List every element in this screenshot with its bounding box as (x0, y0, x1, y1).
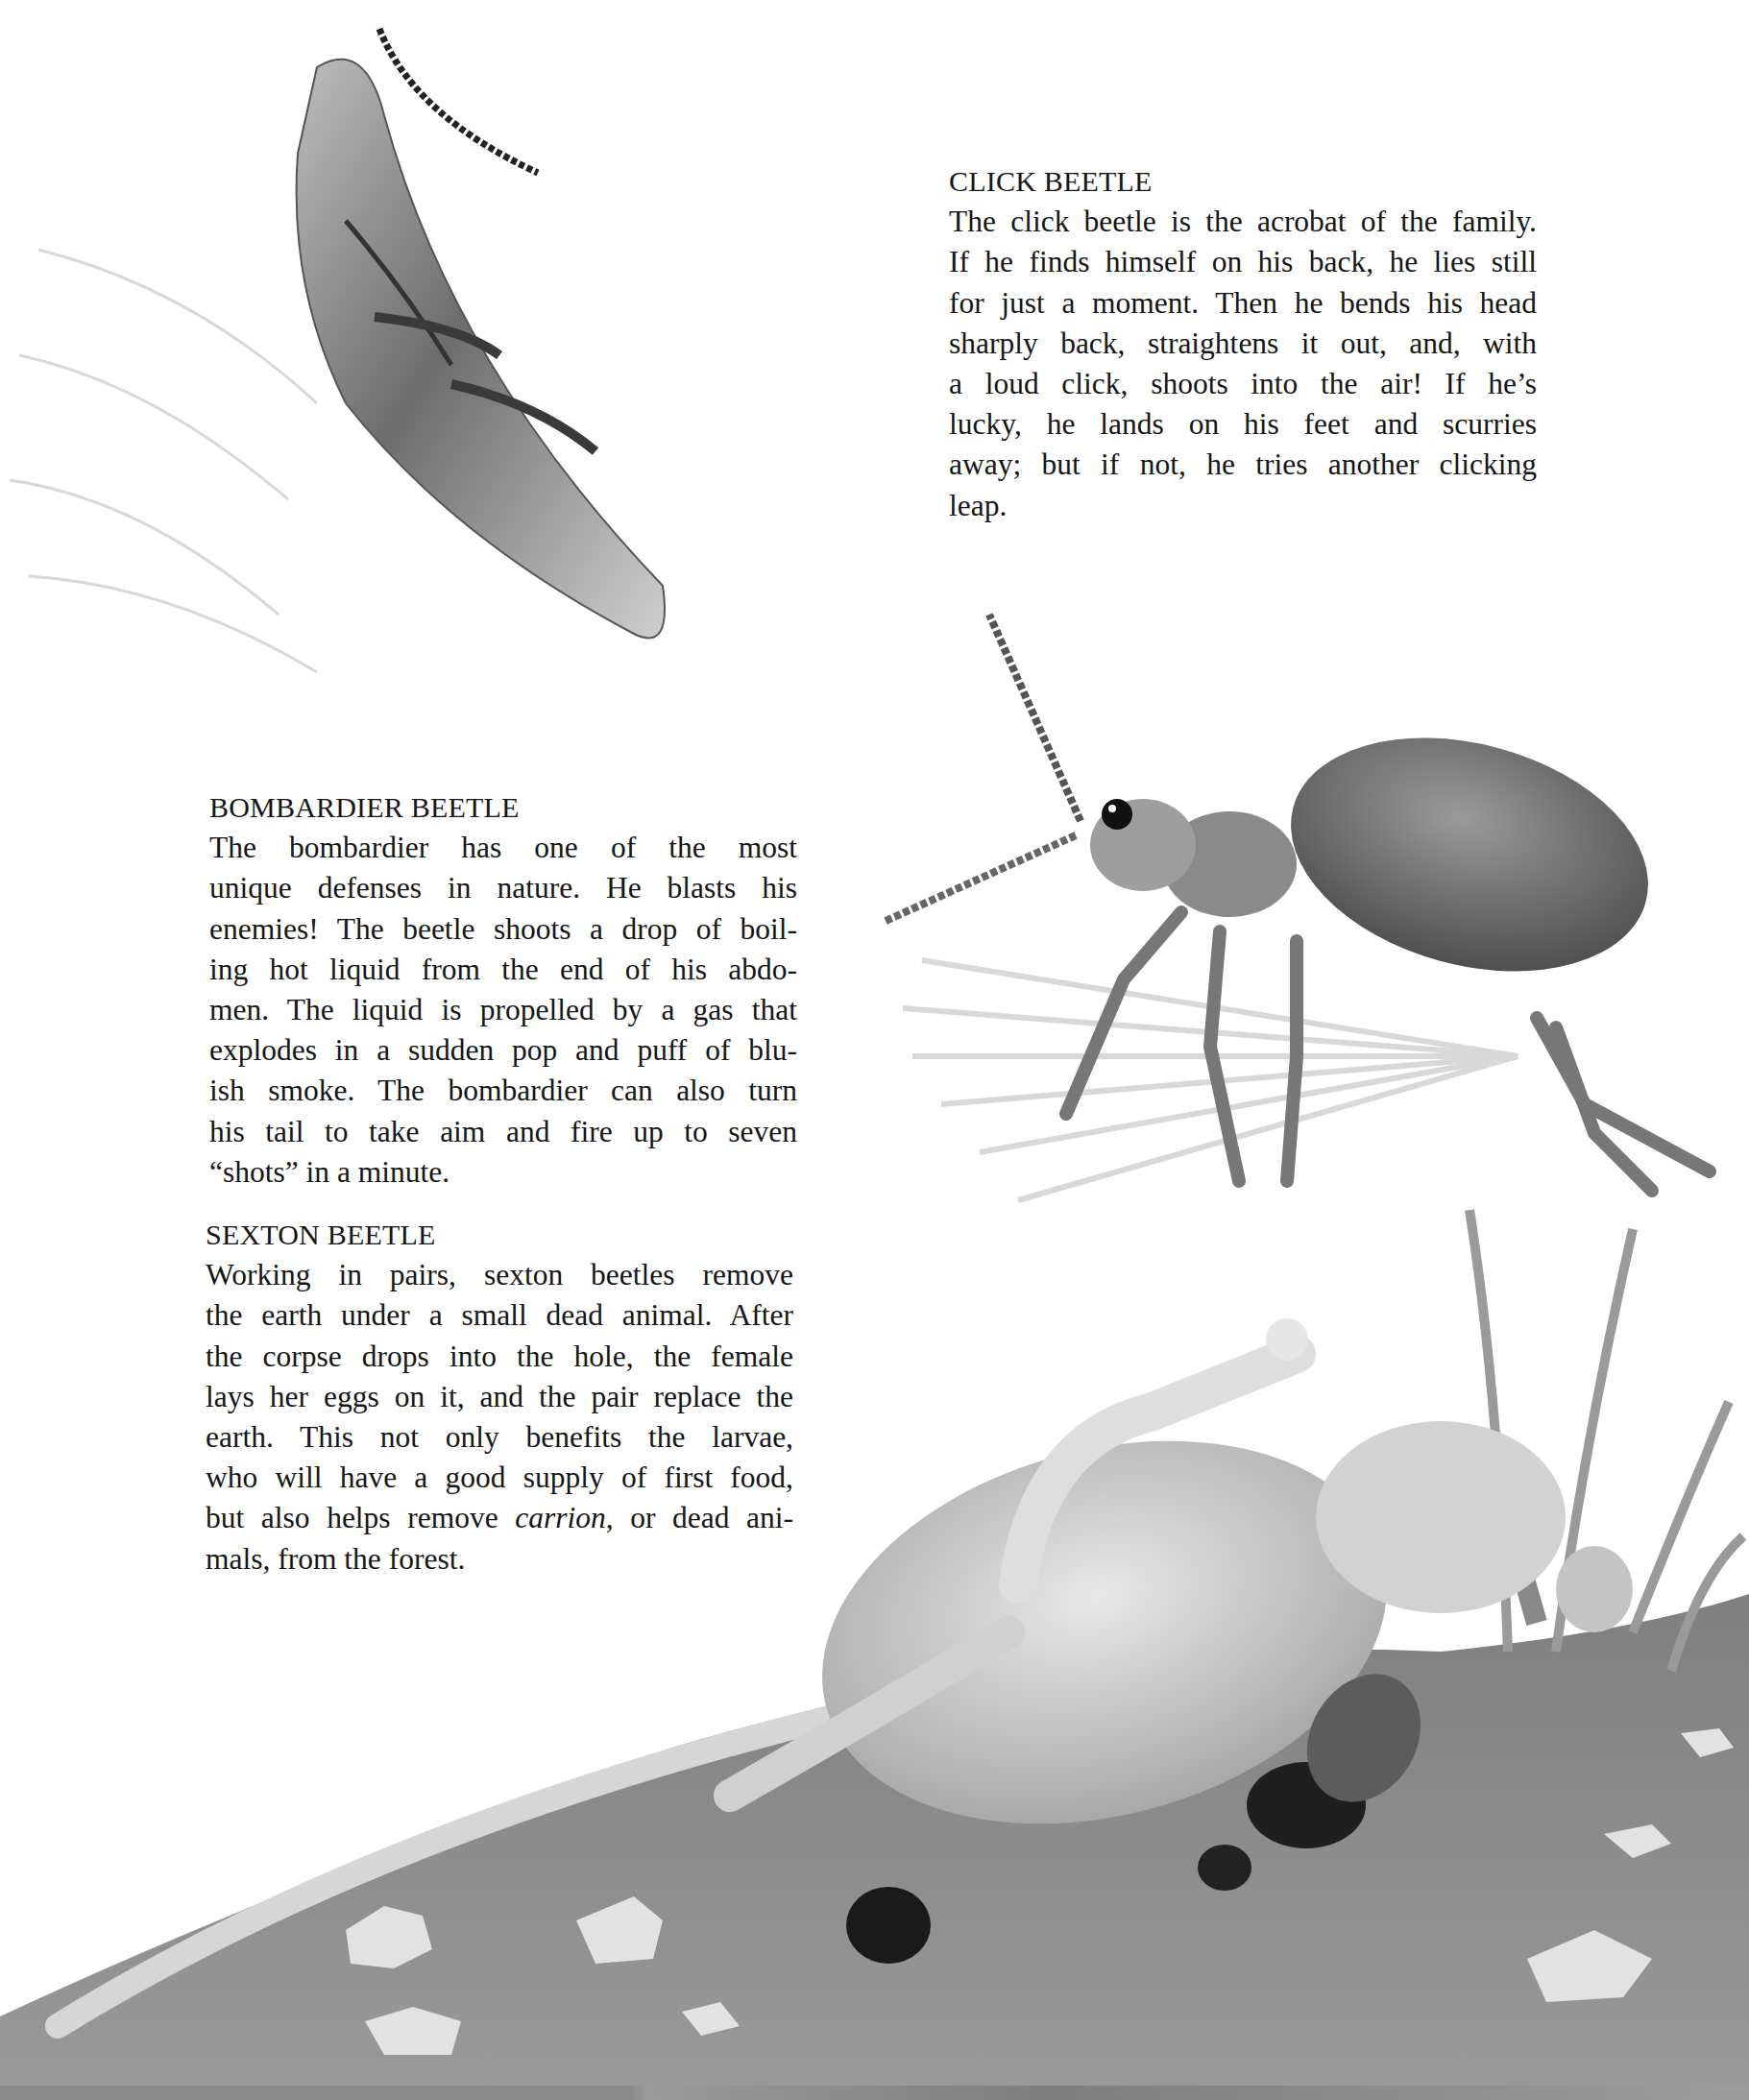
text-fragment: , or dead ani- (606, 1501, 793, 1534)
text-line-with-italic: but also helps remove carrion, or dead a… (206, 1498, 793, 1538)
text-line: If he finds himself on his back, he lies… (949, 242, 1537, 282)
text-line: a loud click, shoots into the air! If he… (949, 364, 1537, 404)
text-line: men. The liquid is propelled by a gas th… (209, 990, 797, 1030)
text-line: away; but if not, he tries another click… (949, 445, 1537, 485)
page-bottom-edge (0, 2086, 1749, 2100)
text-line: earth. This not only benefits the larvae… (206, 1417, 793, 1458)
text-line: for just a moment. Then he bends his hea… (949, 283, 1537, 324)
sexton-beetle-section: SEXTON BEETLE Working in pairs, sexton b… (206, 1215, 793, 1580)
text-line: leap. (949, 486, 1537, 526)
text-line: “shots” in a minute. (209, 1152, 797, 1193)
click-beetle-illustration (10, 29, 665, 672)
click-beetle-section: CLICK BEETLE The click beetle is the acr… (949, 161, 1537, 526)
text-line: ish smoke. The bombardier can also turn (209, 1071, 797, 1111)
text-line: sharply back, straightens it out, and, w… (949, 324, 1537, 364)
bombardier-beetle-illustration (884, 615, 1710, 1200)
text-line: the earth under a small dead animal. Aft… (206, 1295, 793, 1336)
section-heading: SEXTON BEETLE (206, 1215, 793, 1255)
bombardier-beetle-section: BOMBARDIER BEETLE The bombardier has one… (209, 787, 797, 1193)
text-line: mals, from the forest. (206, 1539, 793, 1580)
text-line: ing hot liquid from the end of his abdo- (209, 950, 797, 990)
text-line: his tail to take aim and fire up to seve… (209, 1112, 797, 1152)
motion-lines-icon (10, 250, 317, 672)
text-line: enemies! The beetle shoots a drop of boi… (209, 909, 797, 950)
text-line: the corpse drops into the hole, the fema… (206, 1337, 793, 1377)
text-line: The click beetle is the acrobat of the f… (949, 202, 1537, 242)
text-line: lays her eggs on it, and the pair replac… (206, 1377, 793, 1417)
section-heading: CLICK BEETLE (949, 161, 1537, 202)
text-line: The bombardier has one of the most (209, 828, 797, 868)
text-line: who will have a good supply of first foo… (206, 1458, 793, 1498)
text-fragment: but also helps remove (206, 1501, 515, 1534)
text-line: unique defenses in nature. He blasts his (209, 868, 797, 908)
text-line: explodes in a sudden pop and puff of blu… (209, 1030, 797, 1071)
text-line: lucky, he lands on his feet and scurries (949, 404, 1537, 445)
italic-term-carrion: carrion (515, 1501, 606, 1534)
section-heading: BOMBARDIER BEETLE (209, 787, 797, 828)
text-line: Working in pairs, sexton beetles remove (206, 1255, 793, 1295)
